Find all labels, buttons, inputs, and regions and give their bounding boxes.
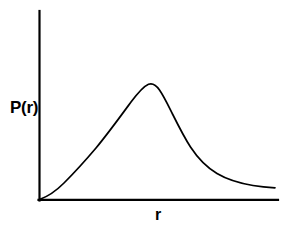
plot-figure: P(r) r — [0, 0, 291, 232]
x-axis-label: r — [155, 207, 161, 223]
y-axis-label: P(r) — [10, 99, 38, 116]
distribution-curve — [40, 84, 276, 200]
plot-canvas — [0, 0, 291, 232]
